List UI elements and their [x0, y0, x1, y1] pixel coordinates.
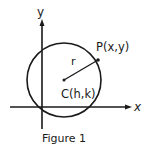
radius-label: r	[71, 55, 76, 68]
point-p	[96, 58, 100, 62]
x-axis-label: x	[133, 100, 142, 114]
center-label: C(h,k)	[61, 87, 96, 101]
y-axis-label: y	[37, 5, 44, 19]
circle-diagram: y x r P(x,y) C(h,k) Figure 1	[0, 0, 152, 154]
center-point	[63, 79, 66, 82]
figure-1: y x r P(x,y) C(h,k) Figure 1	[0, 0, 152, 154]
y-axis-arrow-icon	[40, 19, 45, 26]
x-axis-arrow-icon	[125, 105, 132, 110]
figure-caption: Figure 1	[42, 132, 86, 145]
point-label: P(x,y)	[96, 40, 129, 54]
radius-line	[64, 60, 98, 80]
